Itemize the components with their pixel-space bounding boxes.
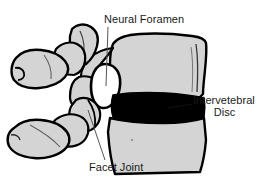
label-neural-foramen: Neural Foramen <box>104 13 184 25</box>
lower-spinous-process <box>8 120 70 158</box>
anatomy-diagram-figure: Neural Foramen Intervetebral Disc Facet … <box>0 0 256 177</box>
label-intervertebral-disc-line1: Intervetebral <box>193 94 256 106</box>
label-intervertebral-disc: Intervetebral Disc <box>193 94 256 118</box>
body-texture-dot <box>131 139 133 141</box>
vertebra-illustration <box>0 0 256 177</box>
intervertebral-disc-band <box>112 93 205 122</box>
label-facet-joint: Facet Joint <box>89 161 143 173</box>
label-intervertebral-disc-line2: Disc <box>193 106 256 118</box>
